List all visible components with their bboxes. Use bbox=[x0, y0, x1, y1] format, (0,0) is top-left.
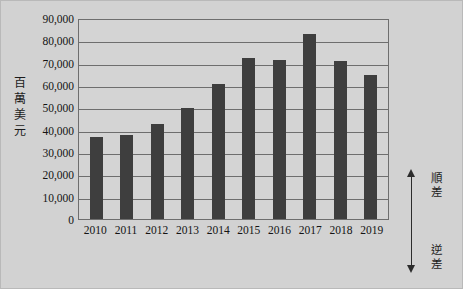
x-axis-tick-label: 2017 bbox=[295, 223, 326, 237]
y-axis-tick-label: 10,000 bbox=[28, 192, 74, 204]
deficit-label-char-1: 逆 bbox=[428, 243, 444, 257]
bar[interactable] bbox=[181, 108, 194, 219]
plot-area bbox=[78, 19, 389, 220]
x-axis-tick-label: 2013 bbox=[172, 223, 203, 237]
y-axis-tick-label: 80,000 bbox=[28, 35, 74, 47]
bar-slot bbox=[173, 20, 204, 219]
bar-slot bbox=[356, 20, 387, 219]
bar[interactable] bbox=[212, 84, 225, 219]
bar[interactable] bbox=[303, 34, 316, 219]
surplus-deficit-annotation: 順 差 逆 差 bbox=[400, 169, 458, 273]
x-axis-tick-label: 2019 bbox=[356, 223, 387, 237]
bar-slot bbox=[203, 20, 234, 219]
bar[interactable] bbox=[364, 75, 377, 219]
x-axis-tick-label: 2015 bbox=[234, 223, 265, 237]
x-axis-tick-label: 2018 bbox=[326, 223, 357, 237]
annotation-labels: 順 差 逆 差 bbox=[422, 169, 458, 273]
bar[interactable] bbox=[90, 137, 103, 219]
y-axis-title-char-3: 美 bbox=[10, 107, 30, 123]
y-axis-tick-label: 70,000 bbox=[28, 58, 74, 70]
y-axis-tick-label: 30,000 bbox=[28, 147, 74, 159]
surplus-label: 順 差 bbox=[428, 171, 444, 199]
y-axis-tick-label: 40,000 bbox=[28, 125, 74, 137]
x-axis-tick-label: 2012 bbox=[141, 223, 172, 237]
x-axis-tick-label: 2016 bbox=[264, 223, 295, 237]
chart-screenshot: 百 萬 美 元 90,00080,00070,00060,00050,00040… bbox=[0, 0, 463, 289]
y-axis-tick-label: 90,000 bbox=[28, 13, 74, 25]
arrow-up-icon bbox=[407, 169, 415, 177]
annotation-line bbox=[411, 177, 412, 265]
y-axis-tick-labels: 90,00080,00070,00060,00050,00040,00030,0… bbox=[28, 13, 74, 227]
bar[interactable] bbox=[242, 58, 255, 219]
deficit-label: 逆 差 bbox=[428, 243, 444, 271]
annotation-axis bbox=[400, 169, 422, 273]
y-axis-title-char-1: 百 bbox=[10, 75, 30, 91]
bar[interactable] bbox=[120, 135, 133, 219]
x-axis-tick-label: 2014 bbox=[203, 223, 234, 237]
deficit-label-char-2: 差 bbox=[428, 257, 444, 271]
bar-slot bbox=[234, 20, 265, 219]
bar[interactable] bbox=[273, 60, 286, 219]
bar-slot bbox=[142, 20, 173, 219]
y-axis-title-char-4: 元 bbox=[10, 123, 30, 139]
bar[interactable] bbox=[334, 61, 347, 219]
y-axis-title: 百 萬 美 元 bbox=[10, 75, 30, 139]
surplus-label-char-1: 順 bbox=[428, 171, 444, 185]
bar-slot bbox=[112, 20, 143, 219]
x-axis-tick-label: 2010 bbox=[80, 223, 111, 237]
bar-slot bbox=[264, 20, 295, 219]
bar-slot bbox=[325, 20, 356, 219]
bar-slot bbox=[295, 20, 326, 219]
y-axis-title-char-2: 萬 bbox=[10, 91, 30, 107]
surplus-label-char-2: 差 bbox=[428, 185, 444, 199]
arrow-down-icon bbox=[407, 265, 415, 273]
y-axis-tick-label: 20,000 bbox=[28, 169, 74, 181]
x-axis-tick-label: 2011 bbox=[111, 223, 142, 237]
y-axis-tick-label: 60,000 bbox=[28, 80, 74, 92]
bar-series bbox=[79, 20, 388, 219]
x-axis-tick-labels: 2010201120122013201420152016201720182019 bbox=[78, 223, 389, 237]
bar-slot bbox=[81, 20, 112, 219]
y-axis-tick-label: 0 bbox=[28, 214, 74, 226]
y-axis-tick-label: 50,000 bbox=[28, 102, 74, 114]
bar[interactable] bbox=[151, 124, 164, 219]
